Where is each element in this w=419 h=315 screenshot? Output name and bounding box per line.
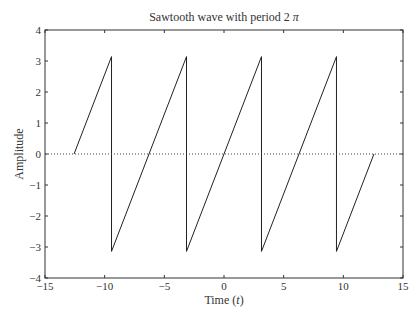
y-tick-label: 0 [36,148,42,160]
x-tick-label: −10 [96,280,114,292]
x-tick-label: 10 [338,280,350,292]
x-axis-label: Time (t) [204,293,243,307]
x-tick-label: −5 [158,280,170,292]
chart-title: Sawtooth wave with period 2 π [149,10,300,24]
y-tick-label: −4 [29,272,41,284]
y-tick-label: 3 [36,55,42,67]
sawtooth-line [74,57,374,252]
y-tick-label: −2 [29,210,41,222]
x-tick-label: 0 [221,280,227,292]
sawtooth-chart: Sawtooth wave with period 2 π −15−10−505… [0,0,419,315]
y-axis-label: Amplitude [12,128,26,179]
y-tick-label: 1 [36,117,42,129]
y-tick-label: 4 [36,24,42,36]
y-tick-label: 2 [36,86,42,98]
x-tick-label: 5 [281,280,287,292]
plot-area: −15−10−5051015−4−3−2−101234 [29,24,409,292]
x-tick-label: 15 [398,280,410,292]
y-tick-label: −3 [29,241,41,253]
y-tick-label: −1 [29,179,41,191]
